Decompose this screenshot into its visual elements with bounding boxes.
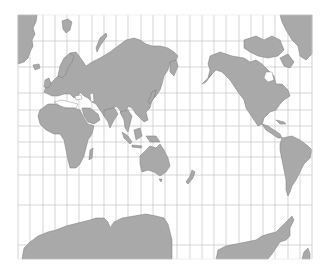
world-map (0, 0, 329, 273)
black-sea (75, 95, 82, 100)
